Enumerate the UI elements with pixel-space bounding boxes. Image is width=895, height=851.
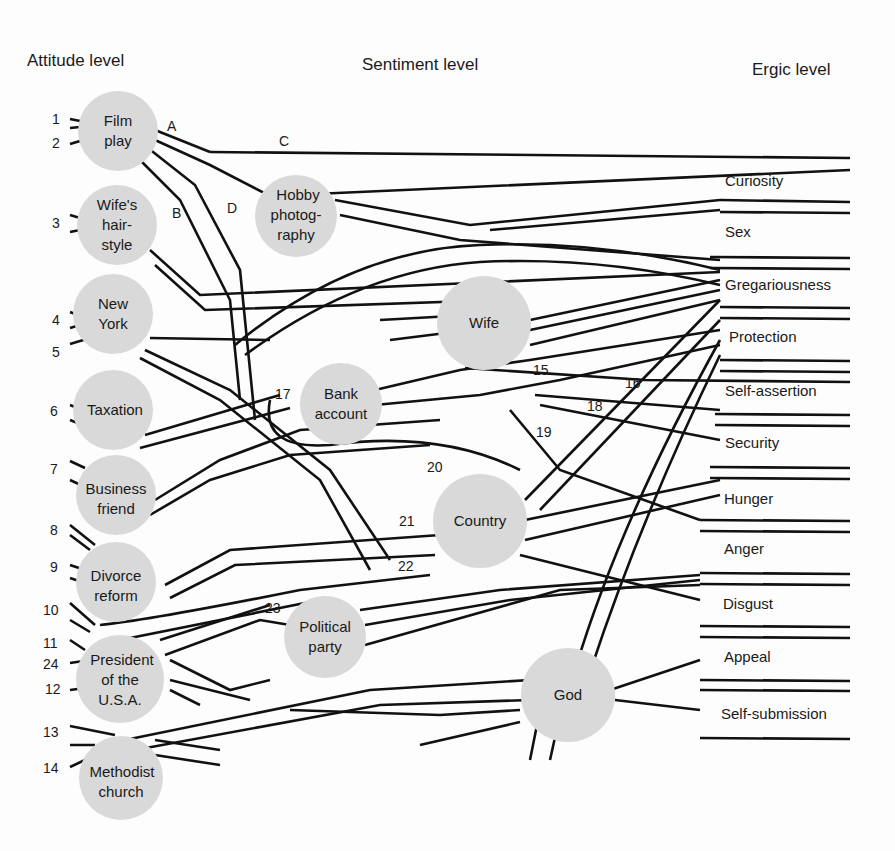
svg-text:church: church [98,783,143,800]
svg-text:24: 24 [43,656,59,672]
dynamic-lattice-diagram: Film play Wife's hair- style New York Ta… [0,0,895,851]
attitude-node-new-york[interactable]: New York [73,274,153,354]
erg-sex[interactable]: Sex [725,223,751,240]
sentiment-node-hobby-photography[interactable]: Hobby photog- raphy [255,175,337,257]
svg-text:9: 9 [50,559,58,575]
erg-gregariousness[interactable]: Gregariousness [725,276,831,293]
sentiment-node-god[interactable]: God [521,648,615,742]
svg-text:Political: Political [299,618,351,635]
svg-text:President: President [90,651,154,668]
svg-text:18: 18 [587,398,603,414]
attitude-node-taxation[interactable]: Taxation [73,370,153,450]
svg-text:15: 15 [533,362,549,378]
path-labels: A B C D 15 16 17 18 19 20 21 22 23 [167,118,641,616]
attitude-numbers: 1 2 3 4 5 6 7 8 9 10 11 24 12 13 14 [43,111,61,776]
svg-text:style: style [102,236,133,253]
erg-self-assertion[interactable]: Self-assertion [725,382,817,399]
svg-text:22: 22 [398,558,414,574]
svg-text:Wife's: Wife's [97,196,137,213]
svg-text:Wife: Wife [469,314,499,331]
svg-text:5: 5 [52,344,60,360]
svg-text:3: 3 [52,215,60,231]
svg-text:reform: reform [94,587,137,604]
sentiment-node-wife[interactable]: Wife [437,276,531,370]
svg-text:photog-: photog- [271,206,322,223]
erg-curiosity[interactable]: Curiosity [725,172,784,189]
svg-text:Hobby: Hobby [276,186,320,203]
svg-text:14: 14 [43,760,59,776]
sentiment-node-political-party[interactable]: Political party [284,596,366,678]
svg-text:Taxation: Taxation [87,401,143,418]
sentiment-node-country[interactable]: Country [433,474,527,568]
attitude-node-film-play[interactable]: Film play [78,91,158,171]
svg-text:C: C [279,133,289,149]
svg-text:account: account [315,405,368,422]
svg-text:8: 8 [50,522,58,538]
attitude-node-president-usa[interactable]: President of the U.S.A. [76,635,164,723]
erg-hunger[interactable]: Hunger [724,490,773,507]
svg-text:play: play [104,132,132,149]
svg-text:6: 6 [50,403,58,419]
attitude-node-divorce-reform[interactable]: Divorce reform [76,542,156,622]
svg-text:York: York [98,315,128,332]
svg-text:party: party [308,638,342,655]
svg-text:23: 23 [265,600,281,616]
attitude-node-wifes-hairstyle[interactable]: Wife's hair- style [77,185,157,265]
svg-text:of the: of the [101,671,139,688]
ergic-labels: Curiosity Sex Gregariousness Protection … [721,172,831,722]
svg-text:10: 10 [43,602,59,618]
svg-text:7: 7 [50,461,58,477]
svg-text:20: 20 [427,459,443,475]
svg-text:Bank: Bank [324,385,359,402]
svg-text:U.S.A.: U.S.A. [98,691,141,708]
svg-text:D: D [227,200,237,216]
svg-text:raphy: raphy [277,226,315,243]
svg-text:A: A [167,118,177,134]
svg-text:New: New [98,295,128,312]
svg-text:Methodist: Methodist [89,763,155,780]
svg-text:Film: Film [104,112,132,129]
svg-text:16: 16 [625,375,641,391]
attitude-nodes: Film play Wife's hair- style New York Ta… [73,91,164,820]
svg-text:B: B [172,205,181,221]
svg-text:4: 4 [52,312,60,328]
erg-security[interactable]: Security [725,434,780,451]
svg-text:1: 1 [52,111,60,127]
attitude-node-business-friend[interactable]: Business friend [76,455,156,535]
svg-text:17: 17 [275,386,291,402]
svg-text:21: 21 [399,513,415,529]
erg-self-submission[interactable]: Self-submission [721,705,827,722]
svg-text:2: 2 [52,135,60,151]
svg-text:friend: friend [97,500,135,517]
svg-text:11: 11 [43,635,58,651]
erg-protection[interactable]: Protection [729,328,797,345]
svg-text:12: 12 [45,681,61,697]
svg-text:hair-: hair- [102,216,132,233]
attitude-node-methodist-church[interactable]: Methodist church [79,736,163,820]
erg-anger[interactable]: Anger [724,540,764,557]
svg-text:Country: Country [454,512,507,529]
svg-text:19: 19 [536,424,552,440]
svg-text:Divorce: Divorce [91,567,142,584]
svg-text:Business: Business [86,480,147,497]
svg-text:13: 13 [43,724,59,740]
svg-text:God: God [554,686,582,703]
erg-disgust[interactable]: Disgust [723,595,774,612]
sentiment-node-bank-account[interactable]: Bank account [300,363,382,445]
erg-appeal[interactable]: Appeal [724,648,771,665]
